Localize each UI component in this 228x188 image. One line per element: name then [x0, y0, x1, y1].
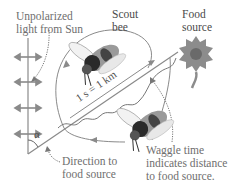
- food-source-label: Food source: [182, 8, 212, 34]
- waggle-label-line2: indicates distance: [146, 157, 227, 170]
- angle-arc: [28, 140, 38, 147]
- scout-bee-label-line1: Scout: [112, 8, 138, 21]
- food-source-label-line1: Food: [182, 8, 212, 21]
- light-label: Unpolarized light from Sun: [16, 10, 83, 36]
- waggle-leader-arrowhead: [150, 77, 156, 84]
- direction-leader-arrowhead: [45, 146, 51, 152]
- flower-icon: [179, 36, 213, 88]
- direction-label-line2: food source: [62, 168, 117, 181]
- waggle-label: Waggle time indicates distance to food s…: [146, 144, 227, 183]
- direction-label: Direction to food source: [62, 155, 117, 181]
- direction-label-line1: Direction to: [62, 155, 117, 168]
- light-label-line1: Unpolarized: [16, 10, 83, 23]
- loop-arrow-lower: [90, 137, 97, 143]
- scout-bee-label-line2: bee: [112, 21, 138, 34]
- angle-label: α: [34, 128, 40, 141]
- direction-leader-line: [48, 150, 60, 162]
- light-label-line2: light from Sun: [16, 23, 83, 36]
- waggle-label-line3: to food source.: [146, 170, 227, 183]
- scout-bee-label: Scout bee: [112, 8, 138, 34]
- loop-arrow-upper: [63, 60, 70, 68]
- waggle-label-line1: Waggle time: [146, 144, 227, 157]
- food-source-label-line2: source: [182, 21, 212, 34]
